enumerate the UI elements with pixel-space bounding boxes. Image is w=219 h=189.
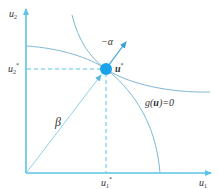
constraint-label: g(u)=0 bbox=[145, 97, 174, 109]
y-tick-label-u2-star: u2* bbox=[8, 62, 19, 75]
alpha-label: −α bbox=[101, 36, 114, 47]
constraint-curve bbox=[26, 46, 160, 173]
level-curve bbox=[72, 15, 210, 92]
y-axis-label: u2 bbox=[9, 8, 17, 20]
optimization-diagram: u2 u2* u* −α β g(u)=0 u1* u1 bbox=[0, 0, 219, 189]
x-axis-label: u1 bbox=[199, 177, 207, 189]
beta-label: β bbox=[54, 115, 61, 129]
optimal-point bbox=[100, 63, 112, 75]
beta-line bbox=[27, 75, 101, 172]
point-label: u* bbox=[115, 62, 124, 74]
x-tick-label-u1-star: u1* bbox=[101, 176, 112, 189]
